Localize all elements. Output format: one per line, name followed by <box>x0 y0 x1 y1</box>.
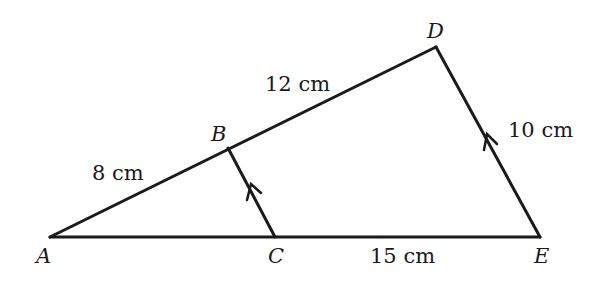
triangle-figure <box>0 0 593 284</box>
segment-BC <box>228 148 275 237</box>
measurement-CE: 15 cm <box>370 246 435 267</box>
measurement-BD: 12 cm <box>265 74 330 95</box>
segment-AD <box>50 47 436 237</box>
measurement-DE: 10 cm <box>508 120 573 141</box>
segment-DE <box>436 47 540 237</box>
measurement-AB: 8 cm <box>92 163 144 184</box>
point-label-B: B <box>211 124 226 145</box>
diagram-canvas: A B C D E 8 cm 12 cm 10 cm 15 cm <box>0 0 593 284</box>
point-label-E: E <box>534 246 549 267</box>
point-label-D: D <box>427 21 444 42</box>
point-label-A: A <box>36 246 51 267</box>
point-label-C: C <box>268 246 284 267</box>
